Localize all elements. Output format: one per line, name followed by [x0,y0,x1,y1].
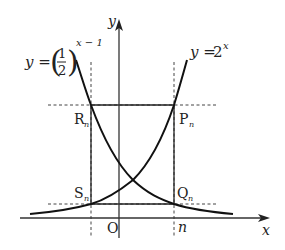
label-exp-growth-base: 2 [213,43,223,61]
point-Q-subscript: n [188,194,193,203]
fraction-numerator: 1 [58,46,66,61]
x-axis-label: x [262,222,270,238]
point-P-subscript: n [189,120,194,129]
y-axis-label: y [107,13,117,29]
fraction-denominator: 2 [58,63,66,78]
point-label-P: P n [179,111,194,129]
label-exp-growth-exponent: x [223,40,229,51]
point-P-name: P [179,111,188,127]
label-exp-decay-exponent: x − 1 [76,37,103,48]
curve-exp-growth [30,60,187,214]
curve-exp-decay [76,60,233,214]
label-exp-decay-prefix: y = [24,53,51,71]
point-S-subscript: n [84,194,89,203]
point-label-R: R n [74,111,89,129]
point-label-S: S n [74,185,89,203]
label-exp-growth: y = 2 x [189,40,229,61]
point-label-Q: Q n [177,185,193,203]
point-R-subscript: n [84,120,89,129]
function-graph: y = ( 1 2 ) x − 1 y = 2 x R n P n S n Q … [0,0,285,250]
label-exp-decay: y = ( 1 2 ) x − 1 [24,37,103,79]
origin-label: O [107,220,118,236]
point-S-name: S [74,185,84,201]
right-paren: ) [67,44,79,79]
label-exp-growth-prefix: y = [189,43,216,61]
n-tick-label: n [178,219,187,235]
point-Q-name: Q [177,185,188,201]
